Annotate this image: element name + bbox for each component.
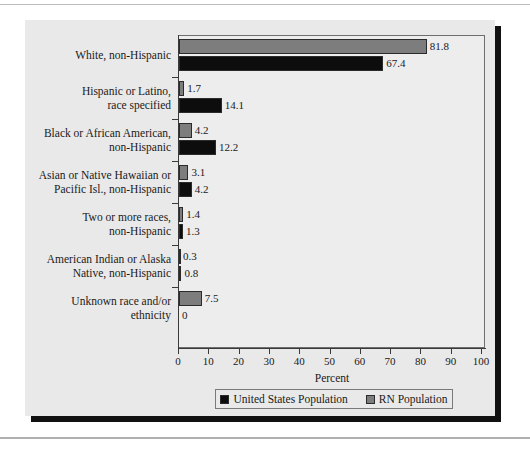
bar-row-rn: 3.1 <box>179 165 489 180</box>
bar-us <box>179 56 383 71</box>
x-tick-mark <box>390 349 391 354</box>
x-tick-mark <box>481 349 482 354</box>
x-tick-label: 20 <box>233 355 244 367</box>
bar-value-label: 67.4 <box>383 55 405 71</box>
x-tick-mark <box>178 349 179 354</box>
x-tick-label: 50 <box>324 355 335 367</box>
x-tick-mark <box>269 349 270 354</box>
category-label: Black or African American,non-Hispanic <box>25 127 171 154</box>
x-tick-mark <box>330 349 331 354</box>
bar-row-us: 67.4 <box>179 56 489 71</box>
bar-group: White, non-Hispanic81.867.4 <box>25 35 495 77</box>
category-tick <box>172 245 178 246</box>
bar-group: American Indian or AlaskaNative, non-His… <box>25 245 495 287</box>
category-label-line: ethnicity <box>25 308 171 322</box>
category-label-line: Unknown race and/or <box>25 295 171 309</box>
bar-row-rn: 0.3 <box>179 249 489 264</box>
bar-row-us: 4.2 <box>179 182 489 197</box>
bar-pair: 0.30.8 <box>179 245 489 287</box>
category-label-line: Native, non-Hispanic <box>25 266 171 280</box>
bar-value-label: 4.2 <box>192 181 209 197</box>
legend-swatch-icon-us <box>220 395 229 404</box>
category-tick <box>172 287 178 288</box>
category-tick <box>172 77 178 78</box>
x-tick-label: 10 <box>203 355 214 367</box>
category-label-line: race specified <box>25 98 171 112</box>
bar-value-label: 3.1 <box>188 164 205 180</box>
bar-pair: 3.14.2 <box>179 161 489 203</box>
x-tick-label: 70 <box>385 355 396 367</box>
bar-us <box>179 98 222 113</box>
bar-value-label: 1.3 <box>183 223 200 239</box>
bar-group: Hispanic or Latino,race specified1.714.1 <box>25 77 495 119</box>
category-label-line: White, non-Hispanic <box>25 49 171 63</box>
bar-rn <box>179 39 427 54</box>
bar-group: Asian or Native Hawaiian orPacific Isl.,… <box>25 161 495 203</box>
page-rule-top <box>0 4 530 5</box>
bar-rn <box>179 165 188 180</box>
chart-legend: United States Population RN Population <box>215 389 453 409</box>
bar-pair: 1.714.1 <box>179 77 489 119</box>
bar-us <box>179 182 192 197</box>
x-tick-mark <box>299 349 300 354</box>
x-tick-label: 0 <box>175 355 181 367</box>
legend-item-rn-population: RN Population <box>366 393 448 405</box>
bar-value-label: 1.7 <box>184 80 201 96</box>
bar-value-label: 14.1 <box>222 97 244 113</box>
category-label-line: American Indian or Alaska <box>25 253 171 267</box>
bar-group: Unknown race and/orethnicity7.50 <box>25 287 495 329</box>
category-label: White, non-Hispanic <box>25 49 171 63</box>
x-tick-label: 40 <box>294 355 305 367</box>
bar-rn <box>179 291 202 306</box>
category-label-line: Pacific Isl., non-Hispanic <box>25 182 171 196</box>
x-tick-label: 100 <box>473 355 490 367</box>
category-label-line: non-Hispanic <box>25 140 171 154</box>
legend-item-united-states-population: United States Population <box>220 393 347 405</box>
x-tick-mark <box>420 349 421 354</box>
bar-row-us: 1.3 <box>179 224 489 239</box>
bar-group: Black or African American,non-Hispanic4.… <box>25 119 495 161</box>
legend-label-us: United States Population <box>233 393 347 405</box>
category-label: Asian or Native Hawaiian orPacific Isl.,… <box>25 169 171 196</box>
legend-label-rn: RN Population <box>379 393 448 405</box>
bar-pair: 81.867.4 <box>179 35 489 77</box>
category-label-line: Black or African American, <box>25 127 171 141</box>
x-tick-mark <box>451 349 452 354</box>
category-label: American Indian or AlaskaNative, non-His… <box>25 253 171 280</box>
x-tick-mark <box>239 349 240 354</box>
x-tick-label: 80 <box>415 355 426 367</box>
bar-row-rn: 1.4 <box>179 207 489 222</box>
category-label-line: Asian or Native Hawaiian or <box>25 169 171 183</box>
figure-card: White, non-Hispanic81.867.4Hispanic or L… <box>25 20 495 416</box>
bar-pair: 1.41.3 <box>179 203 489 245</box>
bar-us <box>179 140 216 155</box>
bar-pair: 7.50 <box>179 287 489 329</box>
category-label: Hispanic or Latino,race specified <box>25 85 171 112</box>
bar-value-label: 0 <box>179 307 188 323</box>
category-label-line: non-Hispanic <box>25 224 171 238</box>
bar-value-label: 12.2 <box>216 139 238 155</box>
bar-rn <box>179 123 192 138</box>
bar-row-us: 0 <box>179 308 489 323</box>
category-label-line: Hispanic or Latino, <box>25 85 171 99</box>
category-tick <box>172 119 178 120</box>
bar-value-label: 0.8 <box>181 265 198 281</box>
bar-pair: 4.212.2 <box>179 119 489 161</box>
bar-row-us: 14.1 <box>179 98 489 113</box>
bar-row-us: 0.8 <box>179 266 489 281</box>
x-tick-mark <box>208 349 209 354</box>
category-label: Unknown race and/orethnicity <box>25 295 171 322</box>
x-tick-mark <box>360 349 361 354</box>
category-label: Two or more races,non-Hispanic <box>25 211 171 238</box>
bar-value-label: 7.5 <box>202 290 219 306</box>
bar-row-rn: 4.2 <box>179 123 489 138</box>
legend-swatch-icon-rn <box>366 395 375 404</box>
x-tick-label: 90 <box>445 355 456 367</box>
x-axis-title: Percent <box>178 372 486 384</box>
bar-row-rn: 7.5 <box>179 291 489 306</box>
category-label-line: Two or more races, <box>25 211 171 225</box>
bar-value-label: 0.3 <box>180 248 197 264</box>
bar-group: Two or more races,non-Hispanic1.41.3 <box>25 203 495 245</box>
bar-row-us: 12.2 <box>179 140 489 155</box>
page-rule-bottom <box>0 437 530 439</box>
